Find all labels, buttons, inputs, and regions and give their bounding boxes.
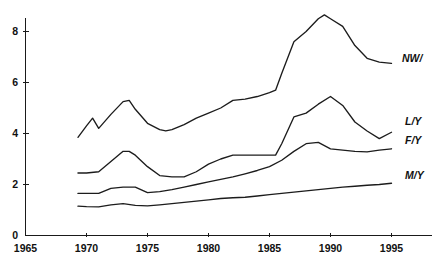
x-tick-label-1975: 1975 [128, 242, 168, 254]
y-tick-label-2: 2 [2, 178, 18, 190]
x-tick-label-1980: 1980 [189, 242, 229, 254]
line-chart: 02468 1965197019751980198519901995 NW/L/… [0, 0, 435, 265]
x-tick-label-1985: 1985 [250, 242, 290, 254]
series-label-nw: NW/ [402, 52, 422, 64]
x-tick-label-1995: 1995 [372, 242, 412, 254]
y-tick-label-6: 6 [2, 76, 18, 88]
series-label-ly: L/Y [405, 115, 421, 127]
series-line-ly [78, 97, 392, 177]
x-tick-label-1970: 1970 [67, 242, 107, 254]
series-lines-group [78, 15, 392, 207]
y-tick-label-0: 0 [2, 229, 18, 241]
y-tick-label-4: 4 [2, 127, 18, 139]
y-tick-label-8: 8 [2, 25, 18, 37]
series-line-nw [78, 15, 392, 137]
chart-plot-area [0, 0, 435, 265]
x-tick-label-1965: 1965 [6, 242, 46, 254]
series-label-my: M/Y [405, 169, 424, 181]
series-label-fy: F/Y [405, 134, 421, 146]
series-line-fy [78, 142, 392, 193]
x-tick-label-1990: 1990 [311, 242, 351, 254]
